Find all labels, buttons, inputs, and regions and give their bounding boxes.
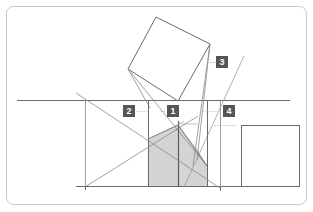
shaded-face-left xyxy=(148,125,178,186)
projection-line-b xyxy=(128,69,150,108)
projection-line-d xyxy=(197,44,210,160)
badge-1: 1 xyxy=(167,105,179,117)
badge-3: 3 xyxy=(216,56,228,68)
diagram-svg xyxy=(0,0,313,212)
badge-4: 4 xyxy=(223,105,235,117)
rotated-square xyxy=(128,17,210,101)
diagonal-line-right xyxy=(184,56,244,187)
badge-2: 2 xyxy=(123,105,135,117)
reference-square xyxy=(242,126,300,187)
diagram-canvas: 1 2 3 4 xyxy=(0,0,313,212)
